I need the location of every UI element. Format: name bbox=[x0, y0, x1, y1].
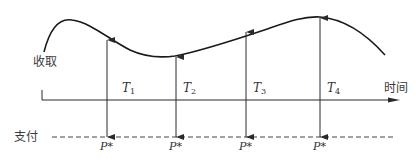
pay-label: 支付 bbox=[14, 131, 38, 143]
period-2-label: T2 bbox=[183, 82, 196, 96]
period-2-payment-label: P* bbox=[169, 141, 182, 152]
period-4-label: T4 bbox=[327, 82, 340, 96]
period-3-label: T3 bbox=[253, 82, 266, 96]
period-1-label: T1 bbox=[122, 82, 135, 96]
receive-label: 收取 bbox=[33, 56, 57, 68]
period-1-payment-label: P* bbox=[100, 141, 113, 152]
time-axis-arrowhead bbox=[388, 98, 400, 103]
swap-payment-diagram: 收取 支付 时间 T1 T2 T3 T4 P* P* P* P* bbox=[0, 0, 416, 164]
receive-curve bbox=[44, 17, 385, 57]
diagram-canvas bbox=[0, 0, 416, 164]
period-4-payment-label: P* bbox=[313, 141, 326, 152]
period-3-payment-label: P* bbox=[239, 141, 252, 152]
time-axis-label: 时间 bbox=[384, 82, 408, 94]
